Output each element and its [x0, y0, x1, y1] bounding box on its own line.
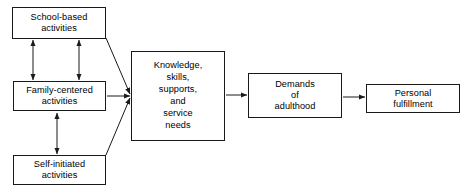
node-demands-of-adulthood: Demands of adulthood: [248, 73, 342, 118]
edge-school-knowledge: [106, 38, 130, 94]
node-personal-fulfillment: Personal fulfillment: [366, 84, 460, 113]
node-knowledge-skills-supports-service-needs: Knowledge, skills, supports, and service…: [131, 51, 225, 141]
node-self-initiated-activities: Self-initiated activities: [13, 155, 106, 185]
edge-self-knowledge: [106, 98, 130, 155]
node-family-centered-activities: Family-centered activities: [13, 81, 106, 111]
node-school-based-activities: School-based activities: [12, 7, 106, 39]
flow-diagram: School-based activities Family-centered …: [0, 0, 467, 193]
